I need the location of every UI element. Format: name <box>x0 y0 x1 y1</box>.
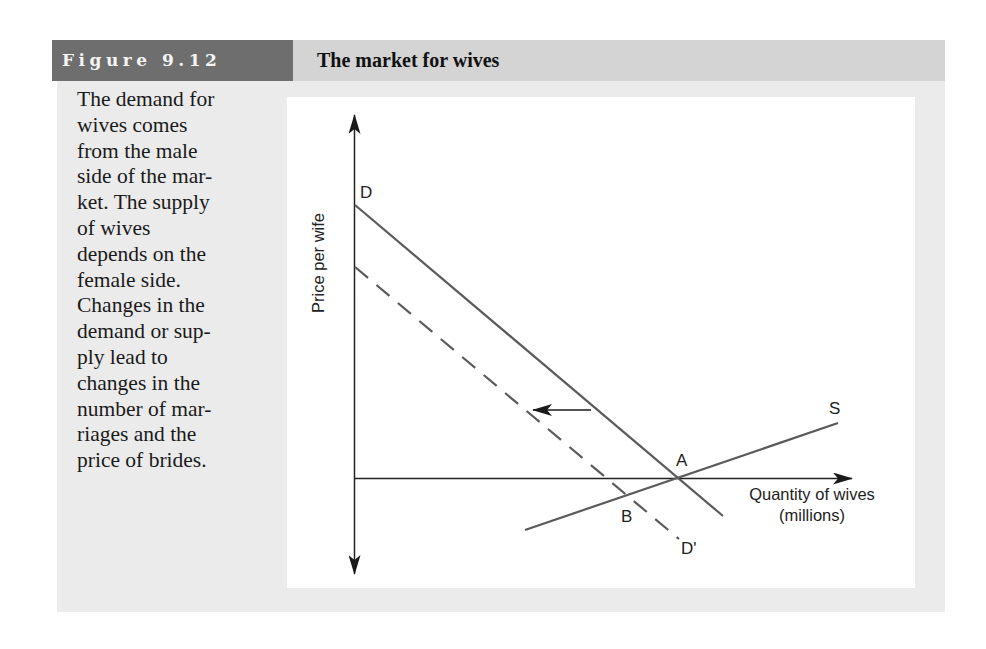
label-d-prime: D' <box>681 539 697 558</box>
label-d: D <box>360 183 372 202</box>
supply-demand-chart: D S A B D' Price per wife Quantity of wi… <box>0 0 986 649</box>
label-a: A <box>676 451 688 470</box>
x-axis-title-line1: Quantity of wives <box>749 485 875 503</box>
demand-curve-d <box>355 205 723 516</box>
y-axis-title: Price per wife <box>309 213 327 313</box>
demand-curve-d-prime <box>355 267 679 539</box>
label-s: S <box>829 399 840 418</box>
x-axis-title-line2: (millions) <box>779 506 845 524</box>
label-b: B <box>621 507 632 526</box>
